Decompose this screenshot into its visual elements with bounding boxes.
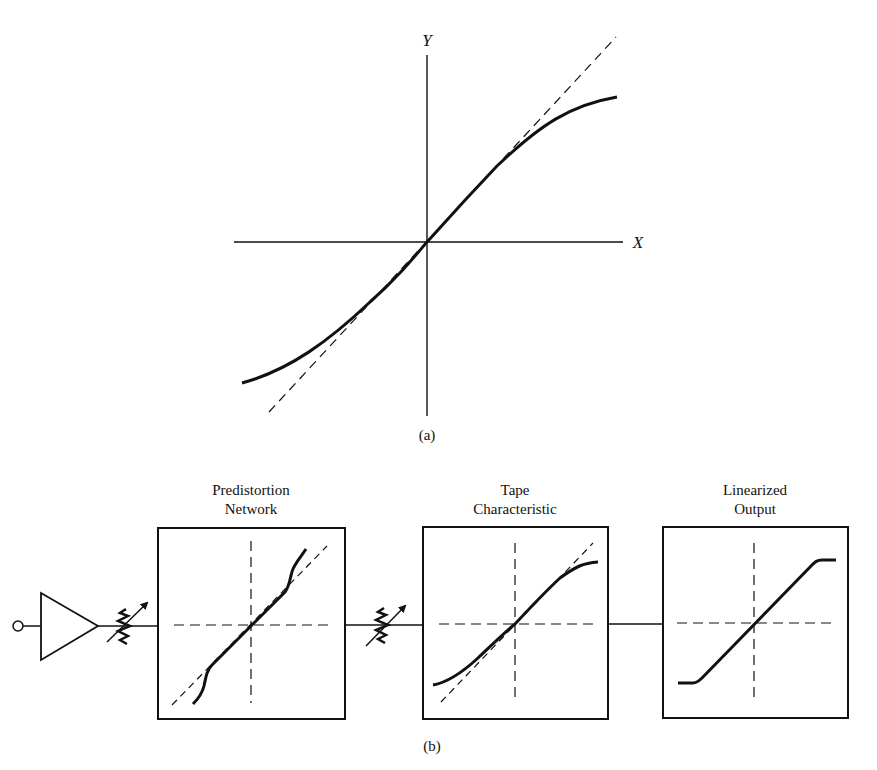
block-title-line2: Network [225,501,278,517]
block-title-line2: Output [734,501,777,517]
block-title-line2: Characteristic [473,501,557,517]
variable-resistor-icon [366,606,405,646]
figure-b: Predistortion Network Tape Characteristi… [13,482,848,755]
transfer-curve [242,97,617,383]
figure-a-caption: (a) [419,427,436,444]
figure-b-caption: (b) [423,738,441,755]
y-axis-label: Y [422,31,433,50]
block-title-line1: Tape [501,482,530,498]
figure-a: Y X (a) [234,31,644,444]
block-tape-characteristic: Tape Characteristic [423,482,608,719]
diagram-canvas: Y X (a) Predistortion Network [0,0,877,770]
variable-resistor-icon [107,603,147,644]
block-linearized-output: Linearized Output [663,482,848,718]
block-predistortion-network: Predistortion Network [158,482,345,719]
input-terminal [13,621,23,631]
x-axis-label: X [632,233,644,252]
amplifier-icon [41,593,98,660]
block-title-line1: Predistortion [212,482,290,498]
block-title-line1: Linearized [723,482,788,498]
